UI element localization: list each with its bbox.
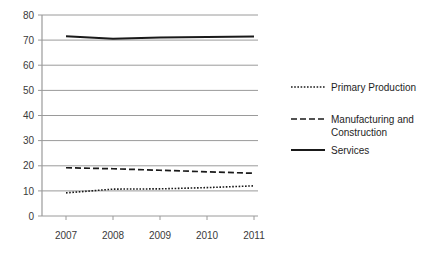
y-axis-tick-labels: 80 70 60 50 40 30 20 10 0 <box>23 10 35 222</box>
x-tick-label-2007: 2007 <box>55 230 78 241</box>
y-tick-label-50: 50 <box>23 85 35 96</box>
y-tick-label-80: 80 <box>23 10 35 21</box>
legend-label-services: Services <box>331 145 369 156</box>
x-tick-label-2010: 2010 <box>196 230 219 241</box>
legend-label-manufacturing-line-1: Manufacturing and <box>331 114 414 125</box>
y-tick-label-40: 40 <box>23 110 35 121</box>
legend-label-primary-production: Primary Production <box>331 82 416 93</box>
x-tick-label-2011: 2011 <box>243 230 265 241</box>
y-tick-label-0: 0 <box>28 211 34 222</box>
x-tick-label-2009: 2009 <box>149 230 172 241</box>
y-tick-label-20: 20 <box>23 160 35 171</box>
y-tick-label-30: 30 <box>23 135 35 146</box>
x-tick-label-2008: 2008 <box>102 230 125 241</box>
y-tick-label-60: 60 <box>23 60 35 71</box>
chart-canvas: 80 70 60 50 40 30 20 10 0 2007 2008 2009… <box>0 0 436 258</box>
legend-label-manufacturing-line-2: Construction <box>331 127 387 138</box>
y-tick-label-10: 10 <box>23 186 35 197</box>
y-tick-label-70: 70 <box>23 35 35 46</box>
line-chart: 80 70 60 50 40 30 20 10 0 2007 2008 2009… <box>0 0 436 258</box>
